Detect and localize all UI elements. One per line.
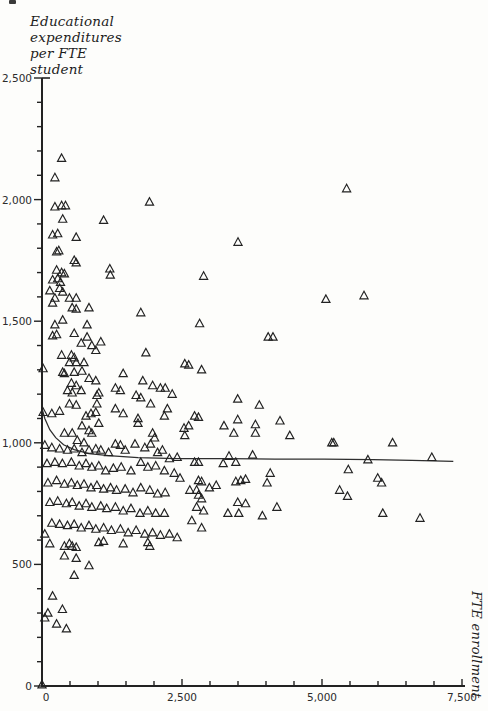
- data-point-triangle: [59, 316, 67, 324]
- data-point-triangle: [51, 320, 59, 328]
- data-point-triangle: [161, 488, 169, 496]
- data-point-triangle: [48, 443, 56, 451]
- data-point-triangle: [60, 429, 68, 437]
- data-point-triangle: [163, 404, 171, 412]
- data-point-triangle: [78, 367, 86, 375]
- data-point-triangle: [97, 338, 105, 346]
- data-point-triangle: [49, 299, 57, 307]
- data-points: [38, 154, 436, 688]
- x-tick-label: 2,500: [167, 691, 197, 703]
- data-point-triangle: [141, 530, 149, 538]
- data-point-triangle: [46, 539, 54, 547]
- data-point-triangle: [149, 528, 157, 536]
- data-point-triangle: [85, 374, 93, 382]
- data-point-triangle: [132, 526, 140, 534]
- data-point-triangle: [53, 476, 61, 484]
- data-point-triangle: [100, 216, 108, 224]
- data-point-triangle: [111, 503, 119, 511]
- data-point-triangle: [251, 429, 259, 437]
- data-point-triangle: [58, 351, 66, 359]
- data-point-triangle: [147, 400, 155, 408]
- data-point-triangle: [242, 499, 250, 507]
- data-point-triangle: [54, 497, 62, 505]
- data-point-triangle: [105, 448, 113, 456]
- data-point-triangle: [44, 479, 52, 487]
- y-tick-label: 0: [25, 680, 32, 692]
- data-point-triangle: [43, 459, 51, 467]
- y-tick-label: 1,000: [2, 437, 32, 449]
- data-point-triangle: [109, 464, 117, 472]
- data-point-triangle: [107, 526, 115, 534]
- data-point-triangle: [249, 451, 257, 459]
- data-point-triangle: [378, 479, 386, 487]
- data-point-triangle: [286, 431, 294, 439]
- data-point-triangle: [152, 509, 160, 517]
- data-point-triangle: [92, 346, 100, 354]
- data-point-triangle: [343, 492, 351, 500]
- y-tick-label: 1,500: [2, 315, 32, 327]
- data-point-triangle: [379, 509, 387, 517]
- data-point-triangle: [322, 295, 330, 303]
- data-point-triangle: [129, 488, 137, 496]
- data-point-triangle: [60, 552, 68, 560]
- data-point-triangle: [152, 462, 160, 470]
- data-point-triangle: [53, 620, 61, 628]
- data-point-triangle: [196, 319, 204, 327]
- data-point-triangle: [54, 229, 62, 237]
- data-point-triangle: [72, 554, 80, 562]
- data-point-triangle: [173, 453, 181, 461]
- data-point-triangle: [65, 400, 73, 408]
- data-point-triangle: [85, 561, 93, 569]
- data-point-triangle: [360, 291, 368, 299]
- data-point-triangle: [156, 531, 164, 539]
- data-point-triangle: [117, 463, 125, 471]
- data-point-triangle: [119, 409, 127, 417]
- data-point-triangle: [70, 329, 78, 337]
- data-point-triangle: [145, 198, 153, 206]
- data-point-triangle: [136, 509, 144, 517]
- data-point-triangle: [119, 539, 127, 547]
- data-point-triangle: [111, 404, 119, 412]
- data-point-triangle: [80, 358, 88, 366]
- data-point-triangle: [111, 440, 119, 448]
- data-point-triangle: [224, 509, 232, 517]
- data-point-triangle: [234, 415, 242, 423]
- x-tick-label: 7,500: [447, 691, 477, 703]
- data-point-triangle: [198, 365, 206, 373]
- axes: [41, 78, 465, 686]
- data-point-triangle: [343, 184, 351, 192]
- data-point-triangle: [82, 499, 90, 507]
- data-point-triangle: [58, 605, 66, 613]
- data-point-triangle: [56, 445, 64, 453]
- data-point-triangle: [416, 514, 424, 522]
- data-point-triangle: [344, 465, 352, 473]
- data-point-triangle: [127, 504, 135, 512]
- data-point-triangle: [255, 401, 263, 409]
- data-point-triangle: [72, 358, 80, 366]
- data-point-triangle: [146, 486, 154, 494]
- data-point-triangle: [92, 445, 100, 453]
- data-point-triangle: [428, 453, 436, 461]
- data-point-triangle: [62, 624, 70, 632]
- data-point-triangle: [173, 533, 181, 541]
- data-point-triangle: [131, 440, 139, 448]
- data-point-triangle: [212, 481, 220, 489]
- data-point-triangle: [85, 303, 93, 311]
- data-point-triangle: [67, 458, 75, 466]
- data-point-triangle: [51, 173, 59, 181]
- data-point-triangle: [93, 481, 101, 489]
- x-tick-label: 5,000: [307, 691, 337, 703]
- data-point-triangle: [165, 530, 173, 538]
- data-point-triangle: [77, 386, 85, 394]
- data-point-triangle: [72, 233, 80, 241]
- data-point-triangle: [149, 381, 157, 389]
- data-point-triangle: [56, 407, 64, 415]
- data-point-triangle: [68, 498, 76, 506]
- data-point-triangle: [219, 459, 227, 467]
- data-point-triangle: [82, 459, 90, 467]
- data-point-triangle: [200, 272, 208, 280]
- data-point-triangle: [83, 320, 91, 328]
- data-point-triangle: [46, 498, 54, 506]
- data-point-triangle: [188, 516, 196, 524]
- data-point-triangle: [67, 479, 75, 487]
